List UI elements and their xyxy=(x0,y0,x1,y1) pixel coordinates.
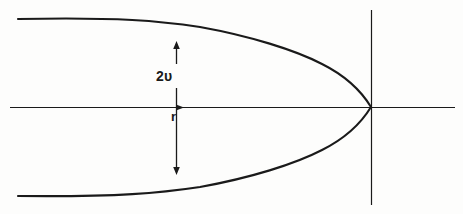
parabola-upper-branch xyxy=(18,18,371,107)
parabola-lower-branch xyxy=(18,107,371,196)
parabola-figure: 2υ r xyxy=(0,0,463,214)
figure-canvas xyxy=(0,0,463,214)
aperture-label: 2υ xyxy=(156,69,173,83)
dimension-arrow-down-icon xyxy=(173,167,180,175)
radius-arrow-right-icon xyxy=(176,104,184,110)
radius-label: r xyxy=(171,110,176,123)
dimension-arrow-up-icon xyxy=(173,41,180,49)
